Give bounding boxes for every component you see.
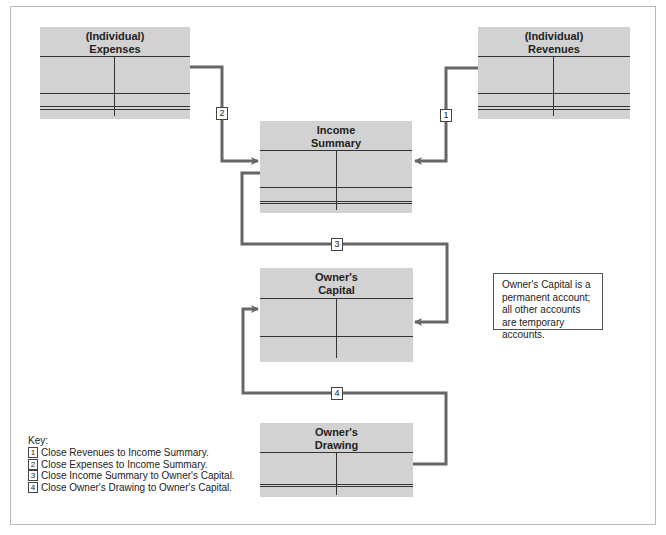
key-text: Close Revenues to Income Summary. xyxy=(41,447,209,459)
key-item: 2 Close Expenses to Income Summary. xyxy=(28,459,235,471)
key-title: Key: xyxy=(28,434,235,447)
key-item: 4 Close Owner's Drawing to Owner's Capit… xyxy=(28,482,235,494)
key-number: 3 xyxy=(28,470,38,481)
key-legend: Key: 1 Close Revenues to Income Summary.… xyxy=(28,434,235,493)
key-text: Close Expenses to Income Summary. xyxy=(41,459,208,471)
key-item: 1 Close Revenues to Income Summary. xyxy=(28,447,235,459)
t-account-revenues: (Individual) Revenues xyxy=(478,27,630,119)
step-label-2: 2 xyxy=(216,107,228,120)
key-item: 3 Close Income Summary to Owner's Capita… xyxy=(28,470,235,482)
permanent-account-note: Owner's Capital is a permanent account; … xyxy=(493,273,603,330)
step-label-3: 3 xyxy=(331,238,343,251)
account-title: Income Summary xyxy=(260,124,412,150)
t-account-owners-drawing: Owner's Drawing xyxy=(260,423,413,497)
account-title: Owner's Drawing xyxy=(260,426,413,452)
t-account-income-summary: Income Summary xyxy=(260,121,412,213)
step-label-1: 1 xyxy=(440,109,452,122)
key-number: 2 xyxy=(28,459,38,470)
t-account-owners-capital: Owner's Capital xyxy=(260,268,413,362)
account-title: (Individual) Revenues xyxy=(478,30,630,56)
key-number: 4 xyxy=(28,482,38,493)
t-account-expenses: (Individual) Expenses xyxy=(40,27,190,119)
account-title: Owner's Capital xyxy=(260,271,413,297)
key-text: Close Income Summary to Owner's Capital. xyxy=(41,470,235,482)
step-label-4: 4 xyxy=(331,387,343,400)
key-text: Close Owner's Drawing to Owner's Capital… xyxy=(41,482,232,494)
account-title: (Individual) Expenses xyxy=(40,30,190,56)
key-number: 1 xyxy=(28,447,38,458)
